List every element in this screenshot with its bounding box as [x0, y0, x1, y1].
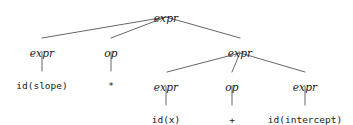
tree-node-op-star: *: [108, 81, 114, 91]
tree-node-root: expr: [154, 13, 179, 24]
tree-node-id-intercept: id(intercept): [268, 115, 342, 125]
tree-node-id-slope: id(slope): [16, 81, 67, 91]
tree-node-inner-right: expr: [293, 82, 318, 93]
tree-node-inner-op: op: [225, 82, 238, 93]
tree-node-left-op: op: [104, 48, 117, 59]
tree-edge-root-to-left-expr: [42, 17, 166, 38]
tree-node-left-expr: expr: [30, 48, 55, 59]
tree-node-op-plus: +: [229, 115, 235, 125]
parse-tree-diagram: exprexpropexprid(slope)*expropexprid(x)+…: [0, 0, 353, 125]
tree-node-inner-left: expr: [154, 82, 179, 93]
tree-node-right-expr: expr: [228, 48, 253, 59]
tree-node-id-x: id(x): [152, 115, 181, 125]
